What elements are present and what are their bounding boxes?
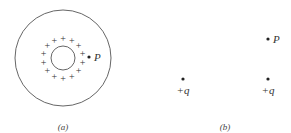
plus-charge: + <box>69 35 75 46</box>
caption-b: (b) <box>220 122 231 132</box>
panel-b: P +q +q (b) <box>177 33 280 132</box>
positive-charge-ring: ++++++++++++++ <box>41 33 86 84</box>
point-p-dot-a <box>87 55 90 58</box>
plus-charge: + <box>60 33 66 44</box>
caption-a: (a) <box>58 122 69 132</box>
charge-left-dot <box>181 77 184 80</box>
plus-charge: + <box>69 71 75 82</box>
charge-left-label: +q <box>177 84 190 96</box>
point-p-label-b: P <box>272 33 280 45</box>
plus-charge: + <box>51 71 57 82</box>
plus-charge: + <box>76 65 82 76</box>
charge-right-label: +q <box>262 84 275 96</box>
figure-canvas: ++++++++++++++ P (a) P +q +q (b) <box>0 0 291 133</box>
charge-right-dot <box>266 77 269 80</box>
plus-charge: + <box>60 73 66 84</box>
panel-a: ++++++++++++++ P (a) <box>15 10 111 132</box>
plus-charge: + <box>51 35 57 46</box>
point-p-dot-b <box>266 37 269 40</box>
point-p-label-a: P <box>93 51 101 63</box>
plus-charge: + <box>45 40 51 51</box>
inner-sphere <box>51 46 75 70</box>
